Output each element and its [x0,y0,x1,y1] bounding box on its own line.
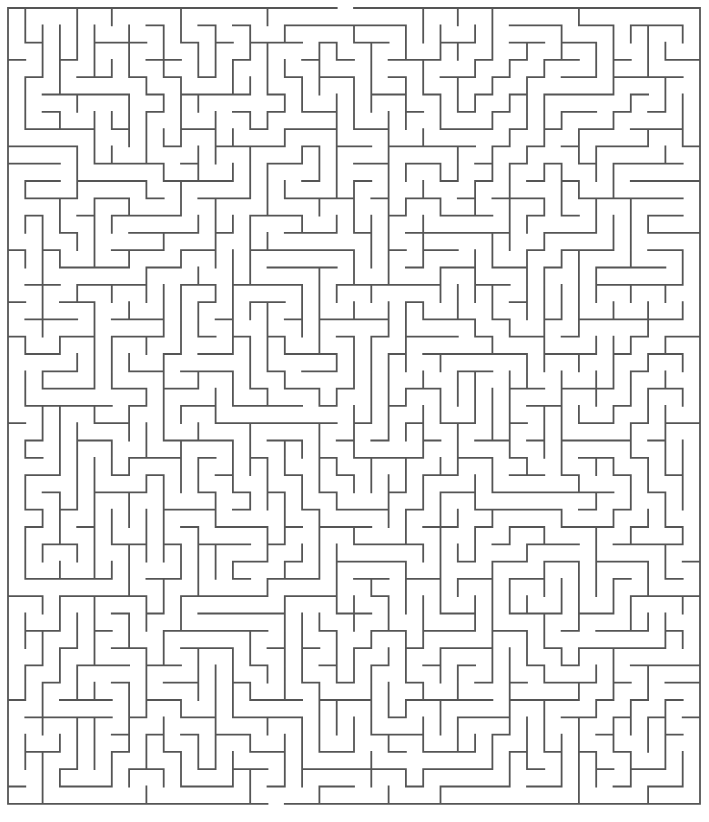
maze-grid [0,0,709,822]
maze-page [0,0,709,822]
